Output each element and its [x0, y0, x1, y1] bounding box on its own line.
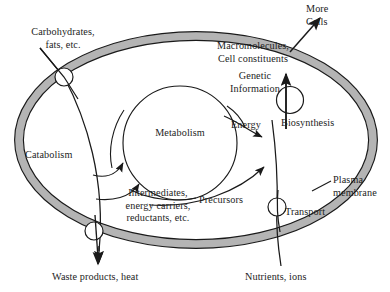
nutrients-inflow-line [272, 120, 281, 266]
plasma-membrane-leader-line [312, 181, 331, 191]
pore-biosynthesis-export [277, 87, 304, 114]
metabolism-left-guide-upper [111, 110, 125, 168]
label-precursors: Precursors [199, 194, 243, 206]
label-intermediates: Intermediates, energy carriers, reductan… [126, 187, 191, 225]
label-genetic-line1: Genetic [230, 70, 280, 83]
label-genetic-information: Genetic Information [230, 70, 280, 95]
label-more-cells: More Cells [306, 3, 328, 28]
label-plasma-line2: membrane [333, 187, 377, 200]
metabolism-circle [123, 86, 237, 200]
label-macromolecules-line1: Macromolecules, [217, 40, 289, 53]
label-macromolecules: Macromolecules, Cell constituents [217, 40, 289, 65]
label-transport: Transport [285, 206, 325, 218]
label-metabolism: Metabolism [155, 127, 205, 139]
label-more-cells-line1: More [306, 3, 328, 16]
pore-waste-exit [85, 222, 103, 240]
label-nutrients-ions: Nutrients, ions [245, 271, 307, 283]
label-plasma-membrane: Plasma membrane [333, 174, 377, 199]
label-catabolism: Catabolism [25, 149, 72, 161]
label-more-cells-line2: Cells [306, 16, 328, 29]
label-biosynthesis: Biosynthesis [281, 117, 334, 129]
label-waste-products: Waste products, heat [52, 271, 138, 283]
label-genetic-line2: Information [230, 83, 280, 96]
label-intermediates-line1: Intermediates, [126, 187, 191, 200]
cell-metabolism-diagram: Carbohydrates, fats, etc. More Cells Mac… [0, 0, 390, 292]
arrow-catabolism-to-metabolism-upper [93, 163, 123, 176]
label-plasma-line1: Plasma [333, 174, 377, 187]
label-intermediates-line3: reductants, etc. [126, 212, 191, 225]
label-macromolecules-line2: Cell constituents [217, 53, 289, 66]
label-carbohydrates-line2: fats, etc. [31, 39, 94, 52]
label-energy: Energy [231, 119, 261, 131]
label-carbohydrates-line1: Carbohydrates, [31, 26, 94, 39]
label-intermediates-line2: energy carriers, [126, 200, 191, 213]
label-carbohydrates: Carbohydrates, fats, etc. [31, 26, 94, 51]
